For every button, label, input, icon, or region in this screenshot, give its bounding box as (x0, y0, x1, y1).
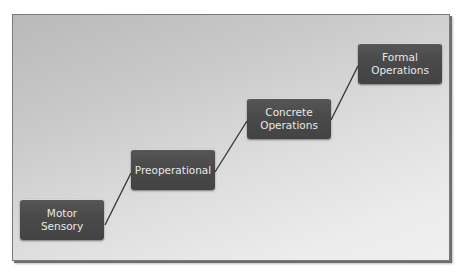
stage-box-preoperational: Preoperational (131, 149, 215, 190)
stage-label-line2: Operations (260, 119, 318, 132)
stage-box-motor-sensory: Motor Sensory (20, 199, 104, 240)
stage-label-line2: Sensory (41, 220, 83, 233)
stage-box-formal-operations: Formal Operations (358, 43, 442, 84)
stage-label-line1: Motor (41, 207, 83, 220)
stage-label-line1: Concrete (260, 106, 318, 119)
stage-label-line2: Operations (371, 64, 429, 77)
stage-label-line1: Formal (371, 51, 429, 64)
stage-box-concrete-operations: Concrete Operations (247, 98, 331, 139)
stage-label-line1: Preoperational (135, 164, 211, 177)
